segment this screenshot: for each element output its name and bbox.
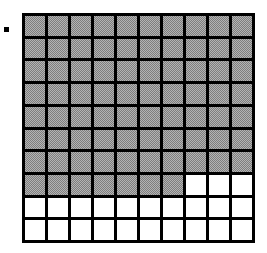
- grid-cell: [94, 16, 114, 36]
- grid-cell: [163, 107, 183, 127]
- grid-cell: [117, 130, 137, 150]
- grid-cell: [140, 220, 160, 240]
- grid-cell: [163, 152, 183, 172]
- grid-cell: [71, 152, 91, 172]
- grid-cell: [140, 39, 160, 59]
- grid-cell: [186, 220, 206, 240]
- grid-cell: [71, 61, 91, 81]
- grid-cell: [163, 198, 183, 218]
- grid-cell: [186, 130, 206, 150]
- square-bullet-icon: [4, 27, 9, 32]
- grid-cell: [186, 39, 206, 59]
- grid-cell: [71, 39, 91, 59]
- grid-cell: [94, 152, 114, 172]
- grid-cell: [140, 175, 160, 195]
- grid-cell: [163, 130, 183, 150]
- grid-cell: [94, 220, 114, 240]
- grid-cell: [163, 16, 183, 36]
- grid-cell: [186, 84, 206, 104]
- grid-cell: [117, 175, 137, 195]
- grid-cell: [186, 175, 206, 195]
- grid-cell: [163, 39, 183, 59]
- grid-cell: [140, 16, 160, 36]
- grid-cell: [48, 107, 68, 127]
- grid-cell: [71, 220, 91, 240]
- grid-cell: [163, 84, 183, 104]
- grid-cell: [48, 220, 68, 240]
- grid-cell: [140, 130, 160, 150]
- grid-cell: [232, 84, 252, 104]
- grid-cell: [25, 175, 45, 195]
- grid-cell: [25, 61, 45, 81]
- grid-cell: [94, 61, 114, 81]
- grid-cell: [232, 198, 252, 218]
- grid-cell: [140, 107, 160, 127]
- grid-cell: [209, 61, 229, 81]
- grid-cell: [25, 16, 45, 36]
- grid-cell: [25, 39, 45, 59]
- grid-cell: [163, 220, 183, 240]
- grid-cell: [209, 39, 229, 59]
- grid-cell: [48, 175, 68, 195]
- grid-cell: [232, 61, 252, 81]
- grid-cell: [232, 130, 252, 150]
- grid-cell: [25, 198, 45, 218]
- grid-cell: [117, 61, 137, 81]
- grid-cell: [186, 198, 206, 218]
- grid-cell: [232, 175, 252, 195]
- grid-cell: [232, 107, 252, 127]
- grid-cell: [25, 84, 45, 104]
- grid-cell: [117, 16, 137, 36]
- grid-cell: [94, 198, 114, 218]
- grid-cell: [48, 16, 68, 36]
- grid-cell: [186, 16, 206, 36]
- grid-cell: [25, 107, 45, 127]
- grid-cell: [163, 61, 183, 81]
- grid-cell: [25, 130, 45, 150]
- grid-cell: [71, 16, 91, 36]
- grid-cell: [140, 84, 160, 104]
- grid-cell: [209, 152, 229, 172]
- shaded-grid: [22, 13, 255, 243]
- grid-cell: [117, 198, 137, 218]
- grid-cell: [140, 152, 160, 172]
- grid-cell: [48, 84, 68, 104]
- grid-cell: [94, 84, 114, 104]
- grid-cell: [209, 84, 229, 104]
- grid-cell: [71, 130, 91, 150]
- grid-cell: [94, 39, 114, 59]
- grid-cell: [71, 198, 91, 218]
- grid-cell: [140, 198, 160, 218]
- grid-cell: [94, 107, 114, 127]
- grid-cell: [209, 107, 229, 127]
- grid-cell: [232, 152, 252, 172]
- grid-cell: [48, 152, 68, 172]
- grid-cell: [94, 175, 114, 195]
- grid-cell: [117, 84, 137, 104]
- grid-cell: [209, 130, 229, 150]
- grid-cell: [48, 130, 68, 150]
- grid-cell: [71, 84, 91, 104]
- grid-cell: [232, 39, 252, 59]
- grid-cell: [25, 152, 45, 172]
- grid-cell: [71, 107, 91, 127]
- grid-cell: [209, 175, 229, 195]
- grid-cell: [209, 198, 229, 218]
- grid-cell: [186, 152, 206, 172]
- grid-cell: [163, 175, 183, 195]
- grid-cell: [48, 61, 68, 81]
- grid-cell: [140, 61, 160, 81]
- grid-cell: [94, 130, 114, 150]
- grid-cell: [209, 220, 229, 240]
- grid-cell: [117, 107, 137, 127]
- grid-cell: [25, 220, 45, 240]
- grid-cell: [117, 152, 137, 172]
- grid-cell: [48, 198, 68, 218]
- grid-cell: [232, 220, 252, 240]
- figure-root: [0, 0, 267, 253]
- grid-cell: [186, 61, 206, 81]
- grid-cell: [232, 16, 252, 36]
- grid-cell: [71, 175, 91, 195]
- grid-cell: [186, 107, 206, 127]
- grid-cell: [117, 220, 137, 240]
